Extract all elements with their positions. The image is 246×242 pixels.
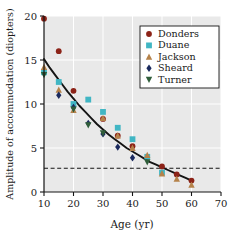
y-tick-label: 0	[31, 187, 37, 198]
x-tick-label: 70	[215, 198, 228, 209]
x-tick-label: 40	[126, 198, 139, 209]
scatter-plot-svg: 1020304050607005101520 Age (yr) Amplitud…	[0, 0, 246, 242]
chart-figure: 1020304050607005101520 Age (yr) Amplitud…	[0, 0, 246, 242]
legend-marker-circle-icon	[146, 31, 152, 37]
data-point	[100, 109, 106, 115]
x-tick-label: 20	[67, 198, 80, 209]
y-tick-label: 5	[31, 143, 37, 154]
data-point	[115, 125, 121, 131]
data-point	[130, 136, 136, 142]
x-tick-label: 10	[38, 198, 51, 209]
legend: DondersDuaneJacksonSheardTurner	[140, 26, 219, 88]
x-tick-label: 50	[156, 198, 169, 209]
data-point	[85, 97, 91, 103]
y-axis-title: Amplitude of accommodation (diopters)	[4, 8, 15, 200]
legend-marker-square-icon	[146, 43, 152, 49]
legend-item-label: Jackson	[157, 51, 196, 62]
legend-item-label: Donders	[158, 28, 199, 39]
x-tick-label: 30	[97, 198, 110, 209]
data-point	[56, 79, 62, 85]
data-point	[56, 48, 62, 54]
legend-item-label: Duane	[158, 39, 190, 50]
legend-item-label: Turner	[158, 74, 192, 85]
y-tick-label: 10	[24, 99, 37, 110]
data-point	[159, 164, 165, 170]
legend-item-label: Sheard	[158, 62, 193, 73]
data-point	[71, 88, 77, 94]
y-tick-label: 20	[24, 11, 37, 22]
x-tick-label: 60	[185, 198, 198, 209]
y-tick-label: 15	[24, 55, 37, 66]
x-axis-title: Age (yr)	[110, 218, 154, 230]
